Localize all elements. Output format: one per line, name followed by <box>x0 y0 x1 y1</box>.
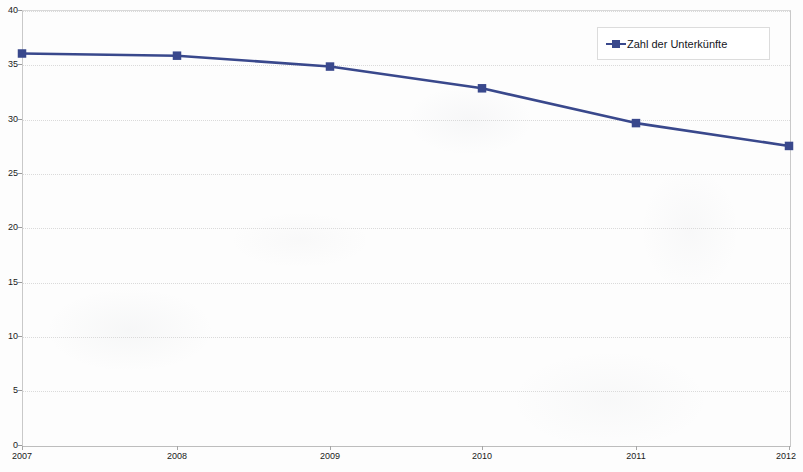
y-tick-label-40: 40 <box>0 5 18 15</box>
x-tick-label-2011: 2011 <box>626 451 645 461</box>
y-tick-label-35: 35 <box>0 59 18 69</box>
legend: Zahl der Unterkünfte <box>597 27 770 60</box>
y-tick-label-30: 30 <box>0 114 18 124</box>
y-tick-mark-40 <box>18 10 22 11</box>
y-tick-mark-35 <box>18 64 22 65</box>
x-tick-mark-2008 <box>177 446 178 450</box>
y-tick-label-15: 15 <box>0 277 18 287</box>
x-tick-label-2010: 2010 <box>472 451 492 461</box>
legend-label: Zahl der Unterkünfte <box>627 38 727 50</box>
plot-area <box>22 10 791 447</box>
x-tick-mark-2007 <box>22 446 23 450</box>
y-tick-mark-10 <box>18 336 22 337</box>
x-tick-mark-2010 <box>482 446 483 450</box>
y-tick-label-5: 5 <box>0 385 18 395</box>
y-tick-label-10: 10 <box>0 331 18 341</box>
gridline-5 <box>23 391 790 392</box>
y-tick-label-20: 20 <box>0 222 18 232</box>
y-tick-mark-5 <box>18 390 22 391</box>
x-tick-mark-2011 <box>636 446 637 450</box>
gridline-30 <box>23 120 790 121</box>
x-tick-mark-2012 <box>789 446 790 450</box>
y-tick-label-0: 0 <box>0 440 18 450</box>
y-tick-mark-25 <box>18 173 22 174</box>
gridline-20 <box>23 228 790 229</box>
gridline-35 <box>23 65 790 66</box>
y-tick-mark-15 <box>18 282 22 283</box>
legend-marker-icon <box>606 39 626 49</box>
y-tick-mark-30 <box>18 119 22 120</box>
y-tick-mark-20 <box>18 227 22 228</box>
y-axis-tick-labels: 40 35 30 25 20 15 10 5 0 <box>0 0 18 472</box>
gridline-25 <box>23 174 790 175</box>
x-tick-label-2012: 2012 <box>776 451 796 461</box>
x-tick-mark-2009 <box>330 446 331 450</box>
x-tick-label-2008: 2008 <box>167 451 187 461</box>
x-tick-label-2009: 2009 <box>320 451 340 461</box>
x-tick-label-2007: 2007 <box>12 451 32 461</box>
gridline-40 <box>23 11 790 12</box>
gridline-10 <box>23 337 790 338</box>
y-tick-label-25: 25 <box>0 168 18 178</box>
chart-container: 40 35 30 25 20 15 10 5 0 2007 2008 2009 … <box>0 0 803 472</box>
gridline-15 <box>23 283 790 284</box>
